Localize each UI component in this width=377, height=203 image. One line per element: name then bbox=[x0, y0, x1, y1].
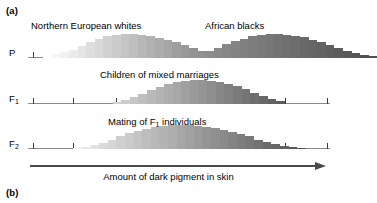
distribution-title-children-of-mixed-marriages: Children of mixed marriages bbox=[100, 69, 219, 80]
histogram-bar bbox=[220, 130, 229, 149]
distribution-title-northern-european-whites: Northern European whites bbox=[31, 20, 141, 31]
generation-label-f2-subscript: 2 bbox=[15, 143, 19, 150]
histogram-bar bbox=[240, 39, 249, 58]
generation-label-f1-subscript: 1 bbox=[15, 98, 19, 105]
histogram-bar bbox=[237, 134, 246, 149]
histogram-bar bbox=[250, 93, 259, 104]
histogram-bar bbox=[216, 82, 225, 104]
histogram-bar bbox=[125, 133, 134, 149]
axis-tick-0 bbox=[33, 52, 34, 58]
arrow-shaft bbox=[30, 165, 316, 167]
histogram-bar bbox=[190, 80, 199, 104]
histogram-bar bbox=[177, 125, 186, 149]
histogram-bar bbox=[224, 84, 233, 104]
histogram-bar bbox=[142, 129, 151, 149]
histogram-bar bbox=[248, 36, 257, 58]
generation-label-p-text: P bbox=[9, 47, 15, 58]
histogram-bar bbox=[334, 48, 343, 58]
histogram-bar bbox=[138, 94, 147, 104]
histogram-bar bbox=[266, 34, 275, 58]
histogram-bar bbox=[291, 36, 300, 58]
generation-label-p: P bbox=[9, 47, 15, 58]
axis-tick-6 bbox=[285, 98, 286, 104]
histogram-bar bbox=[197, 53, 206, 58]
axis-tick-0 bbox=[33, 98, 34, 104]
histogram-bar bbox=[138, 35, 147, 58]
histogram-bar bbox=[211, 128, 220, 149]
histogram-bar bbox=[103, 36, 112, 58]
histogram-bar bbox=[309, 40, 318, 58]
axis-row-p bbox=[28, 57, 330, 58]
histogram-bar bbox=[343, 51, 352, 58]
histogram-bar bbox=[147, 90, 156, 104]
histogram-bar bbox=[108, 140, 117, 149]
histogram-bar bbox=[151, 127, 160, 149]
distribution-title-african-blacks: African blacks bbox=[205, 20, 264, 31]
histogram-bar bbox=[95, 39, 104, 58]
histogram-bar bbox=[242, 89, 251, 104]
histogram-bar bbox=[113, 102, 122, 104]
generation-label-f1: F1 bbox=[9, 93, 19, 105]
histogram-bar bbox=[268, 99, 277, 104]
axis-tick-7 bbox=[327, 98, 328, 104]
histogram-bar bbox=[185, 125, 194, 149]
histogram-bar bbox=[276, 101, 285, 104]
histogram-bar bbox=[188, 56, 197, 58]
histogram-bar bbox=[155, 38, 164, 58]
histogram-bar bbox=[233, 86, 242, 104]
histogram-bar bbox=[82, 147, 91, 149]
axis-row-f2 bbox=[28, 148, 330, 149]
histogram-bar bbox=[86, 42, 95, 58]
histogram-bar bbox=[181, 81, 190, 104]
histogram-bar bbox=[91, 145, 100, 149]
pigment-axis-arrow bbox=[30, 162, 326, 171]
histogram-bar bbox=[271, 144, 280, 149]
histogram-bar bbox=[121, 34, 130, 58]
histogram-bar bbox=[274, 34, 283, 58]
histogram-bar bbox=[146, 36, 155, 58]
histogram-bar bbox=[156, 87, 165, 104]
histogram-bar bbox=[159, 126, 168, 149]
histogram-bar bbox=[43, 56, 52, 58]
histogram-bar bbox=[112, 35, 121, 58]
histogram-bar bbox=[231, 41, 240, 58]
axis-tick-0 bbox=[33, 143, 34, 149]
histogram-bar bbox=[317, 42, 326, 58]
histogram-bar bbox=[297, 148, 306, 149]
axis-tick-1 bbox=[73, 98, 74, 104]
histogram-bar bbox=[222, 44, 231, 58]
right-arrow-icon bbox=[315, 162, 326, 170]
histogram-bar bbox=[283, 35, 292, 58]
panel-label-b: (b) bbox=[6, 187, 18, 198]
histogram-bar bbox=[259, 96, 268, 104]
generation-label-f2-text: F bbox=[9, 138, 15, 149]
histogram-bar bbox=[352, 53, 361, 58]
axis-row-f1 bbox=[28, 103, 330, 104]
histogram-bar bbox=[289, 147, 298, 149]
histogram-bar bbox=[78, 46, 87, 58]
panel-label-a: (a) bbox=[6, 5, 18, 16]
histogram-bar bbox=[173, 82, 182, 104]
histogram-bar bbox=[129, 34, 138, 58]
histogram-bar bbox=[134, 131, 143, 149]
histogram-bar bbox=[245, 136, 254, 149]
histogram-bar bbox=[99, 143, 108, 149]
histogram-children-of-mixed-marriages bbox=[113, 80, 285, 104]
histogram-bar bbox=[52, 54, 61, 58]
histogram-bar bbox=[300, 37, 309, 58]
histogram-bar bbox=[326, 45, 335, 58]
histogram-bar bbox=[369, 56, 377, 58]
histogram-bar bbox=[360, 55, 369, 58]
histogram-bar bbox=[263, 142, 272, 149]
histogram-bar bbox=[228, 132, 237, 149]
histogram-bar bbox=[121, 100, 130, 104]
generation-label-f1-text: F bbox=[9, 93, 15, 104]
axis-tick-7 bbox=[327, 143, 328, 149]
histogram-bar bbox=[254, 140, 263, 149]
histogram-bar bbox=[205, 51, 214, 58]
histogram-bar bbox=[194, 126, 203, 149]
histogram-bar bbox=[257, 35, 266, 58]
histogram-bar bbox=[207, 81, 216, 104]
histogram-bar bbox=[168, 125, 177, 149]
histogram-bar bbox=[214, 48, 223, 58]
